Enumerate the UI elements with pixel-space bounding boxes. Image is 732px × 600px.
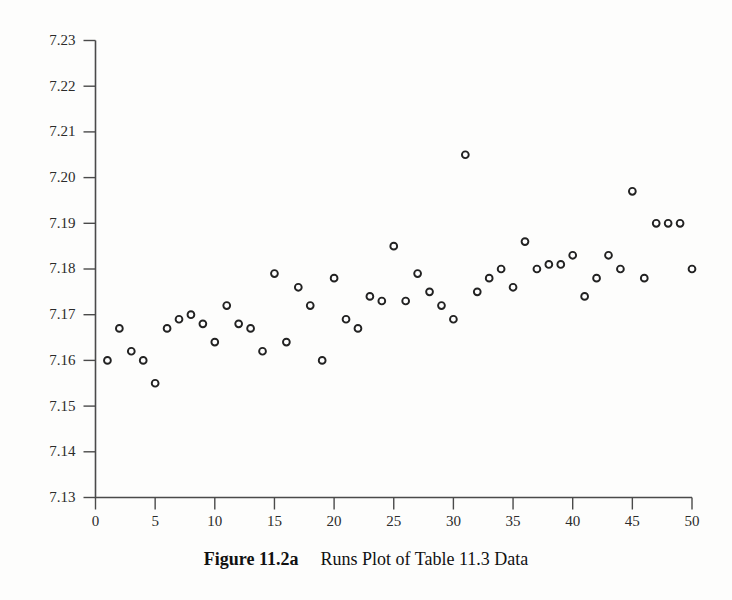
data-point bbox=[462, 151, 469, 158]
x-tick-label: 25 bbox=[386, 513, 401, 529]
data-point bbox=[271, 270, 278, 277]
x-tick-label: 45 bbox=[625, 513, 640, 529]
data-point bbox=[557, 261, 564, 268]
data-point bbox=[677, 220, 684, 227]
data-point bbox=[581, 293, 588, 300]
x-tick-label: 30 bbox=[446, 513, 461, 529]
y-tick-label: 7.14 bbox=[49, 443, 76, 459]
data-point bbox=[605, 252, 612, 259]
y-tick-label: 7.19 bbox=[49, 215, 75, 231]
x-axis-ticks: 05101520253035404550 bbox=[92, 498, 700, 529]
x-tick-label: 5 bbox=[151, 513, 159, 529]
data-point bbox=[176, 316, 183, 323]
data-point bbox=[438, 302, 445, 309]
x-tick-label: 40 bbox=[565, 513, 580, 529]
data-point bbox=[665, 220, 672, 227]
data-point bbox=[355, 325, 362, 332]
figure-page: 7.137.147.157.167.177.187.197.207.217.22… bbox=[0, 0, 732, 600]
data-point bbox=[223, 302, 230, 309]
y-tick-label: 7.15 bbox=[49, 398, 75, 414]
y-tick-label: 7.16 bbox=[49, 352, 76, 368]
data-point bbox=[653, 220, 660, 227]
data-point bbox=[629, 188, 636, 195]
figure-caption: Figure 11.2aRuns Plot of Table 11.3 Data bbox=[0, 549, 732, 570]
y-tick-label: 7.18 bbox=[49, 260, 75, 276]
data-point bbox=[450, 316, 457, 323]
y-tick-label: 7.22 bbox=[49, 78, 75, 94]
data-point bbox=[378, 298, 385, 305]
data-point bbox=[128, 348, 135, 355]
data-point bbox=[319, 357, 326, 364]
y-axis-ticks: 7.137.147.157.167.177.187.197.207.217.22… bbox=[49, 32, 95, 505]
data-point bbox=[331, 275, 338, 282]
data-point bbox=[414, 270, 421, 277]
data-point bbox=[164, 325, 171, 332]
y-tick-label: 7.13 bbox=[49, 489, 75, 505]
scatter-plot-canvas: 7.137.147.157.167.177.187.197.207.217.22… bbox=[0, 0, 732, 545]
data-point bbox=[402, 298, 409, 305]
x-tick-label: 35 bbox=[506, 513, 521, 529]
data-point bbox=[474, 288, 481, 295]
data-point bbox=[390, 243, 397, 250]
data-point bbox=[235, 320, 242, 327]
data-point bbox=[534, 266, 541, 273]
data-point bbox=[426, 288, 433, 295]
data-point bbox=[510, 284, 517, 291]
data-point bbox=[152, 380, 159, 387]
data-point bbox=[188, 311, 195, 318]
data-point bbox=[545, 261, 552, 268]
data-point bbox=[689, 266, 696, 273]
x-tick-label: 50 bbox=[685, 513, 700, 529]
y-tick-label: 7.21 bbox=[49, 123, 75, 139]
data-point bbox=[522, 238, 529, 245]
y-tick-label: 7.17 bbox=[49, 306, 76, 322]
figure-number: Figure 11.2a bbox=[204, 549, 299, 569]
data-point bbox=[116, 325, 123, 332]
data-point bbox=[199, 320, 206, 327]
data-point bbox=[641, 275, 648, 282]
data-points bbox=[104, 151, 695, 386]
data-point bbox=[343, 316, 350, 323]
data-point bbox=[593, 275, 600, 282]
x-tick-label: 20 bbox=[327, 513, 342, 529]
data-point bbox=[498, 266, 505, 273]
x-tick-label: 15 bbox=[267, 513, 282, 529]
x-tick-label: 10 bbox=[207, 513, 222, 529]
runs-plot-figure: 7.137.147.157.167.177.187.197.207.217.22… bbox=[0, 0, 732, 545]
data-point bbox=[366, 293, 373, 300]
axis-lines bbox=[96, 41, 693, 498]
data-point bbox=[104, 357, 111, 364]
y-tick-label: 7.20 bbox=[49, 169, 75, 185]
data-point bbox=[617, 266, 624, 273]
data-point bbox=[247, 325, 254, 332]
y-tick-label: 7.23 bbox=[49, 32, 75, 48]
data-point bbox=[140, 357, 147, 364]
data-point bbox=[211, 339, 218, 346]
data-point bbox=[486, 275, 493, 282]
data-point bbox=[569, 252, 576, 259]
plot-axes bbox=[96, 41, 693, 498]
data-point bbox=[295, 284, 302, 291]
figure-title: Runs Plot of Table 11.3 Data bbox=[320, 549, 528, 569]
data-point bbox=[307, 302, 314, 309]
data-point bbox=[283, 339, 290, 346]
x-tick-label: 0 bbox=[92, 513, 100, 529]
data-point bbox=[259, 348, 266, 355]
